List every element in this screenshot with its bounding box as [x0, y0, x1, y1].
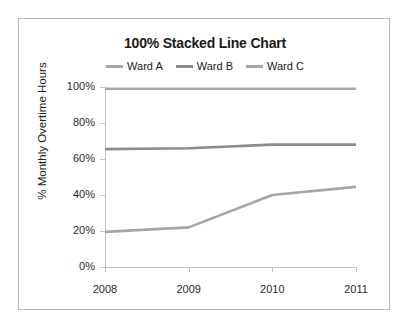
y-tick-marks — [100, 88, 105, 268]
axis-group — [105, 87, 356, 268]
y-tick-label: 0% — [53, 261, 95, 272]
chart-frame: 100% Stacked Line Chart Ward A Ward B Wa… — [18, 18, 390, 310]
x-tick-label: 2010 — [242, 284, 302, 295]
x-tick-label: 2009 — [159, 284, 219, 295]
series-line-ward-b — [105, 145, 356, 150]
y-tick-label: 60% — [53, 153, 95, 164]
y-axis-title: % Monthly Overtime Hours — [36, 41, 48, 221]
series-line-ward-a — [105, 187, 356, 232]
y-tick-label: 40% — [53, 189, 95, 200]
y-tick-label: 20% — [53, 225, 95, 236]
x-tick-label: 2011 — [326, 284, 386, 295]
y-tick-label: 80% — [53, 117, 95, 128]
series-lines — [105, 89, 356, 232]
x-tick-label: 2008 — [75, 284, 135, 295]
y-tick-label: 100% — [53, 81, 95, 92]
